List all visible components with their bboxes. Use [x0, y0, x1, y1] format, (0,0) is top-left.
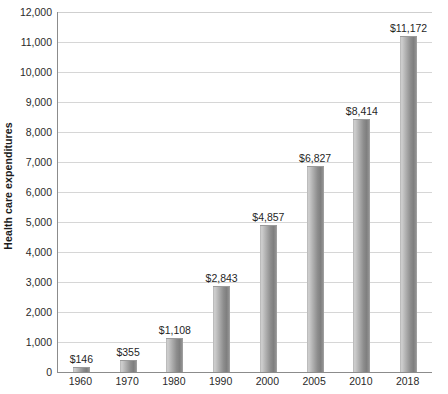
- gridline: [58, 312, 432, 313]
- bar[interactable]: [213, 286, 230, 372]
- bar-value-label: $146: [70, 353, 93, 365]
- bar-value-label: $8,414: [346, 105, 378, 117]
- y-axis-tick-label: 11,000: [0, 36, 52, 48]
- y-axis-tick-label: 2,000: [0, 306, 52, 318]
- y-axis-tick-label: 10,000: [0, 66, 52, 78]
- gridline: [58, 282, 432, 283]
- bar[interactable]: [73, 367, 90, 372]
- bar[interactable]: [166, 338, 183, 372]
- y-axis-tick-label: 9,000: [0, 96, 52, 108]
- y-axis-tick-label: 7,000: [0, 156, 52, 168]
- gridline: [58, 42, 432, 43]
- x-axis-tick-label: 1960: [69, 375, 92, 387]
- gridline: [58, 192, 432, 193]
- bar[interactable]: [400, 36, 417, 372]
- gridline: [58, 342, 432, 343]
- bar-chart: Health care expenditures 01,0002,0003,00…: [0, 0, 448, 394]
- x-axis-tick-label: 1980: [162, 375, 185, 387]
- bar-value-label: $6,827: [299, 152, 331, 164]
- y-axis-tick-label: 8,000: [0, 126, 52, 138]
- x-axis-tick-label: 2005: [302, 375, 325, 387]
- bar[interactable]: [120, 360, 137, 372]
- bar-value-label: $2,843: [206, 272, 238, 284]
- x-axis-tick-label: 2018: [396, 375, 419, 387]
- x-axis-tick-label: 1990: [209, 375, 232, 387]
- x-axis-tick-label: 2010: [349, 375, 372, 387]
- plot-area: $146$355$1,108$2,843$4,857$6,827$8,414$1…: [57, 12, 432, 373]
- y-axis-tick-label: 3,000: [0, 276, 52, 288]
- gridline: [58, 132, 432, 133]
- bar-value-label: $355: [116, 346, 139, 358]
- gridline: [58, 12, 432, 13]
- x-axis-tick-label: 1970: [115, 375, 138, 387]
- x-axis-tick-label: 2000: [256, 375, 279, 387]
- gridline: [58, 102, 432, 103]
- bar-value-label: $11,172: [390, 22, 427, 34]
- y-axis-tick-label: 6,000: [0, 186, 52, 198]
- gridline: [58, 72, 432, 73]
- y-axis-tick-label: 12,000: [0, 6, 52, 18]
- y-axis-tick-label: 4,000: [0, 246, 52, 258]
- y-axis-tick-label: 0: [0, 366, 52, 378]
- y-axis-tick-label: 1,000: [0, 336, 52, 348]
- gridline: [58, 162, 432, 163]
- gridline: [58, 222, 432, 223]
- bar[interactable]: [260, 225, 277, 372]
- bar-value-label: $1,108: [159, 324, 191, 336]
- gridline: [58, 252, 432, 253]
- bar[interactable]: [307, 166, 324, 372]
- bar[interactable]: [353, 119, 370, 372]
- bar-value-label: $4,857: [252, 211, 284, 223]
- y-axis-tick-label: 5,000: [0, 216, 52, 228]
